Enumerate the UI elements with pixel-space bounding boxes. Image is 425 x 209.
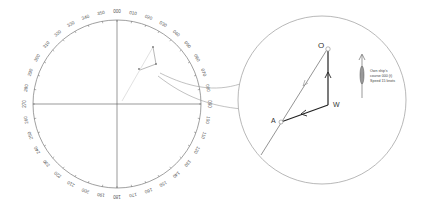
compass-label: 300 (33, 53, 41, 63)
point-a-marker (279, 120, 283, 124)
compass-label: 040 (172, 29, 181, 38)
compass-label: 230 (42, 158, 51, 167)
compass-label: 130 (183, 159, 192, 168)
compass-label: 150 (158, 180, 168, 188)
compass-label: 000 (113, 9, 121, 14)
compass-label: 100 (205, 116, 211, 125)
compass-label: 250 (26, 131, 33, 140)
label-a: A (271, 117, 276, 124)
compass-rose: 0000100200300400500600700800901001101201… (22, 9, 212, 199)
label-o: O (318, 41, 324, 50)
radar-plot-diagram: 0000100200300400500600700800901001101201… (0, 0, 425, 209)
compass-label: 090 (207, 100, 212, 108)
compass-label: 190 (96, 192, 105, 198)
mini-vector-triangle (122, 46, 157, 101)
compass-label: 280 (23, 83, 29, 92)
compass-label: 010 (129, 10, 138, 16)
compass-label: 020 (144, 14, 153, 21)
compass-label: 260 (23, 115, 29, 124)
compass-label: 120 (193, 146, 201, 156)
compass-label: 330 (66, 20, 76, 28)
point-o-marker (326, 47, 330, 51)
annotation-line2: course 000 (t) (370, 74, 392, 78)
compass-label: 030 (159, 20, 169, 28)
detail-magnifier: O W A Own ship's course 000 (t) Speed 15… (238, 16, 406, 184)
compass-label: 200 (81, 187, 90, 194)
compass-label: 050 (183, 40, 192, 49)
compass-label: 240 (33, 145, 41, 155)
compass-label: 160 (144, 187, 153, 194)
compass-label: 320 (53, 29, 62, 38)
annotation-line3: Speed 15 knots (370, 79, 395, 83)
compass-label: 180 (113, 194, 121, 199)
compass-label: 170 (128, 192, 137, 198)
compass-label: 220 (53, 170, 62, 179)
compass-label: 350 (97, 10, 106, 16)
label-w: W (333, 101, 340, 108)
compass-label: 310 (42, 40, 51, 49)
compass-label: 340 (81, 13, 90, 20)
compass-label: 140 (171, 170, 180, 179)
annotation-line1: Own ship's (370, 69, 388, 73)
compass-label: 060 (193, 53, 201, 63)
compass-label: 070 (200, 68, 207, 77)
compass-label: 270 (22, 100, 27, 108)
compass-label: 110 (200, 131, 207, 140)
compass-label: 290 (27, 68, 34, 77)
compass-label: 210 (66, 180, 76, 188)
